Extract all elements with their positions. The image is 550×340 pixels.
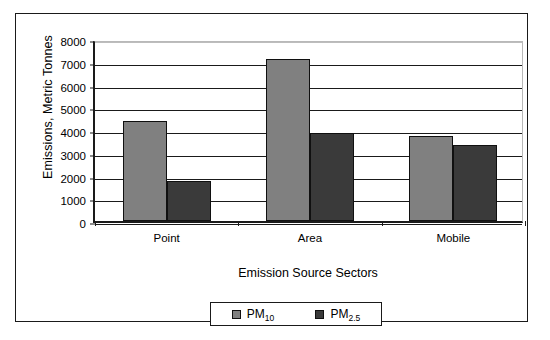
y-tick-label: 8000	[60, 36, 86, 48]
bar-area-pm2-5	[310, 133, 354, 221]
bar-point-pm10	[123, 121, 167, 221]
legend-entry-pm10[interactable]: PM10	[232, 307, 274, 321]
gridline	[95, 42, 522, 43]
legend-label: PM2.5	[330, 307, 360, 321]
y-axis-title: Emissions, Metric Tonnes	[41, 12, 55, 202]
legend-swatch-icon	[315, 310, 324, 319]
bar-mobile-pm2-5	[453, 145, 497, 221]
y-tick-mark	[90, 110, 95, 111]
bar-point-pm2-5	[167, 181, 211, 221]
y-tick-mark	[90, 87, 95, 88]
y-tick-label: 1000	[60, 195, 86, 207]
gridline	[95, 224, 522, 225]
y-tick-label: 5000	[60, 104, 86, 116]
y-tick-mark	[90, 178, 95, 179]
chart-legend: PM10PM2.5	[210, 302, 382, 326]
bar-area-pm10	[266, 59, 310, 221]
y-tick-label: 4000	[60, 127, 86, 139]
x-tick-mark	[525, 221, 526, 226]
legend-entry-pm2-5[interactable]: PM2.5	[315, 307, 360, 321]
y-tick-label: 7000	[60, 59, 86, 71]
y-tick-label: 6000	[60, 82, 86, 94]
plot-area: 800070006000500040003000200010000 PointA…	[93, 41, 523, 223]
y-tick-mark	[90, 155, 95, 156]
x-category-label-area: Area	[298, 232, 322, 244]
y-tick-mark	[90, 133, 95, 134]
x-category-label-mobile: Mobile	[436, 232, 470, 244]
legend-label: PM10	[247, 307, 274, 321]
x-tick-mark	[238, 221, 239, 226]
chart-figure-frame: Emissions, Metric Tonnes 800070006000500…	[15, 13, 528, 322]
y-tick-mark	[90, 201, 95, 202]
y-tick-label: 3000	[60, 150, 86, 162]
x-tick-mark	[95, 221, 96, 226]
legend-swatch-icon	[232, 310, 241, 319]
y-tick-mark	[90, 42, 95, 43]
x-tick-mark	[382, 221, 383, 226]
y-tick-label: 0	[80, 218, 86, 230]
x-axis-title: Emission Source Sectors	[93, 266, 523, 280]
y-tick-mark	[90, 64, 95, 65]
bar-mobile-pm10	[409, 136, 453, 221]
y-tick-label: 2000	[60, 173, 86, 185]
x-category-label-point: Point	[154, 232, 180, 244]
